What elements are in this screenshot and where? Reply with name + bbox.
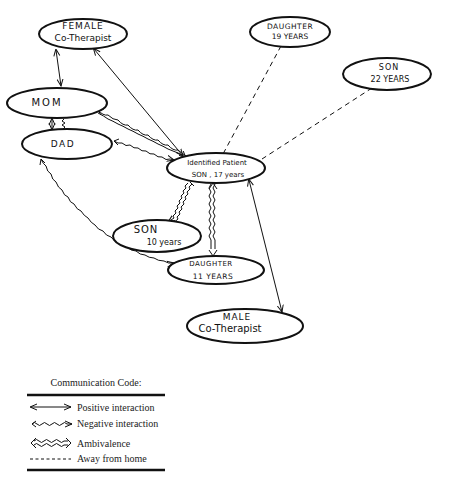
- node-son-10: SON 10 years: [113, 220, 201, 252]
- legend-title: Communication Code:: [51, 377, 142, 388]
- edge-mom-patient-ambivalence-a: [98, 110, 186, 156]
- legend-negative-label: Negative interaction: [77, 418, 158, 429]
- node-dad: DAD: [22, 129, 112, 159]
- node-identified-patient: Identified Patient SON , 17 years: [167, 153, 265, 183]
- node-sublabel: 10 years: [147, 238, 182, 247]
- node-sublabel: Co-Therapist: [198, 323, 261, 334]
- legend-ambivalence-label: Ambivalence: [77, 438, 131, 449]
- node-sublabel: Co-Therapist: [55, 33, 112, 43]
- node-sublabel: 11 YEARS: [193, 272, 233, 281]
- node-mom: MOM: [7, 88, 107, 118]
- node-label: DAUGHTER: [189, 260, 232, 268]
- node-label: SON: [379, 63, 399, 72]
- node-label: MOM: [31, 97, 62, 108]
- node-label: Identified Patient: [187, 159, 247, 167]
- node-label: DAUGHTER: [267, 22, 313, 31]
- legend-ambivalence-swatch: [31, 438, 71, 448]
- node-daughter-11: DAUGHTER 11 YEARS: [168, 256, 264, 284]
- edge-female-mom-positive: [56, 50, 61, 86]
- node-label: MALE: [223, 312, 252, 322]
- edge-son22-patient-away: [262, 88, 372, 159]
- edge-patient-male-positive: [249, 180, 282, 312]
- node-sublabel: 19 YEARS: [272, 32, 309, 41]
- legend-negative-swatch: [32, 423, 72, 426]
- node-label: DAD: [51, 139, 75, 149]
- family-communication-diagram: FEMALE Co-Therapist DAUGHTER 19 YEARS SO…: [0, 0, 453, 483]
- node-sublabel: 22 YEARS: [371, 75, 410, 84]
- edge-dad-patient-negative: [114, 141, 174, 160]
- node-female-therapist: FEMALE Co-Therapist: [39, 19, 127, 49]
- edge-patient-daughter11-ambivalence: [209, 184, 211, 249]
- edge-daughter19-patient-away: [223, 46, 281, 154]
- node-son-22: SON 22 YEARS: [343, 58, 431, 90]
- node-label: FEMALE: [62, 21, 104, 31]
- node-male-therapist: MALE Co-Therapist: [187, 309, 303, 343]
- legend-away-label: Away from home: [77, 453, 147, 464]
- node-sublabel: SON , 17 years: [192, 171, 245, 179]
- node-daughter-19: DAUGHTER 19 YEARS: [250, 17, 330, 47]
- legend-positive-label: Positive interaction: [77, 402, 155, 413]
- node-label: SON: [134, 224, 159, 235]
- legend: Communication Code: Positive interaction…: [27, 377, 165, 470]
